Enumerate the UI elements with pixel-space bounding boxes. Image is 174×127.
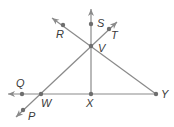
point-R bbox=[61, 23, 65, 27]
label-X: X bbox=[85, 97, 94, 109]
label-Q: Q bbox=[16, 77, 25, 89]
point-Y bbox=[154, 92, 158, 96]
point-W bbox=[39, 92, 43, 96]
ray-YR-arrowhead-icon bbox=[52, 18, 59, 25]
label-T: T bbox=[111, 29, 119, 41]
label-R: R bbox=[56, 28, 64, 40]
label-S: S bbox=[97, 17, 105, 29]
line-PT bbox=[16, 22, 117, 117]
point-P bbox=[21, 108, 25, 112]
label-V: V bbox=[98, 42, 107, 54]
label-W: W bbox=[41, 97, 53, 109]
label-Y: Y bbox=[161, 88, 169, 100]
geometry-diagram: SRTVQWXYP bbox=[0, 0, 174, 127]
lines-layer bbox=[8, 9, 156, 117]
label-P: P bbox=[28, 110, 36, 122]
point-X bbox=[89, 92, 93, 96]
labels-layer: SRTVQWXYP bbox=[16, 17, 169, 122]
point-V bbox=[89, 44, 93, 48]
point-Q bbox=[20, 92, 24, 96]
ray-YR bbox=[52, 18, 156, 94]
point-S bbox=[89, 22, 93, 26]
